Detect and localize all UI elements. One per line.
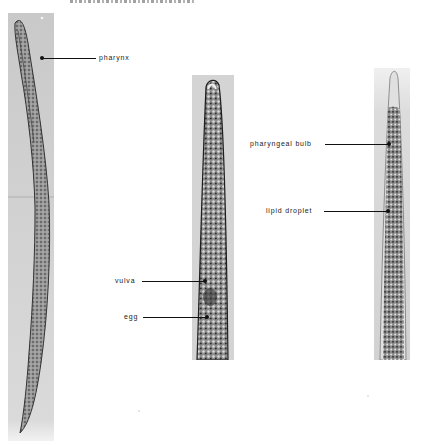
micrograph-whole-body — [8, 13, 54, 441]
label-vulva: vulva — [115, 277, 135, 285]
pharyngeal-bulb-leader-line — [325, 144, 388, 145]
label-pharyngeal-bulb: pharyngeal bulb — [250, 140, 312, 148]
label-pharynx: pharynx — [99, 54, 130, 62]
clipped-header-text — [70, 0, 195, 3]
scan-speck — [138, 410, 140, 412]
label-egg: egg — [124, 313, 138, 321]
lipid-droplet-leader-line — [324, 211, 387, 212]
vulva-leader-line — [142, 281, 204, 282]
nematode-whole-body-image — [8, 13, 54, 441]
scan-speck — [367, 395, 369, 397]
micrograph-anterior-juvenile — [374, 68, 410, 360]
egg-leader-line — [143, 317, 206, 318]
pharynx-leader-line — [42, 58, 96, 59]
nematode-anterior-juvenile-image — [374, 68, 410, 360]
label-lipid-droplet: lipid droplet — [266, 207, 312, 215]
